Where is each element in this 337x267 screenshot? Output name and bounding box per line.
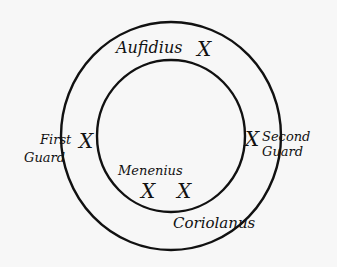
label-first-guard-line1: First	[39, 132, 72, 147]
inner-circle	[97, 60, 245, 212]
label-coriolanus: Coriolanus	[173, 214, 256, 232]
label-first-guard-line2: Guard	[24, 150, 65, 165]
mark-coriolanus: X	[175, 179, 192, 203]
mark-aufidius: X	[195, 37, 212, 61]
label-second-guard-line2: Guard	[262, 144, 303, 159]
label-aufidius: Aufidius	[114, 38, 182, 57]
stage-diagram: Aufidius X First Guard X X Second Guard …	[0, 0, 337, 267]
mark-menenius: X	[139, 179, 156, 203]
mark-first-guard: X	[77, 129, 94, 153]
label-second-guard-line1: Second	[262, 129, 310, 144]
mark-second-guard: X	[243, 127, 260, 151]
label-menenius: Menenius	[117, 163, 183, 178]
